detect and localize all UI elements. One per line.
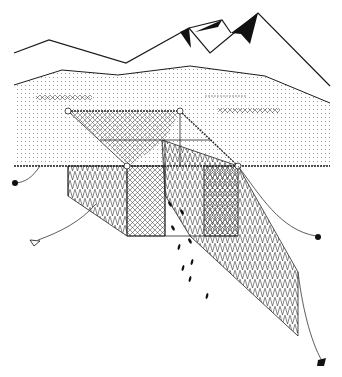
leader-net: [162, 140, 298, 336]
anchor-icon: [317, 358, 326, 366]
anchor-icon: [12, 180, 18, 186]
anchor-icon: [30, 240, 40, 246]
anchor-icon: [315, 234, 321, 240]
trap-net-illustration: [0, 0, 342, 377]
